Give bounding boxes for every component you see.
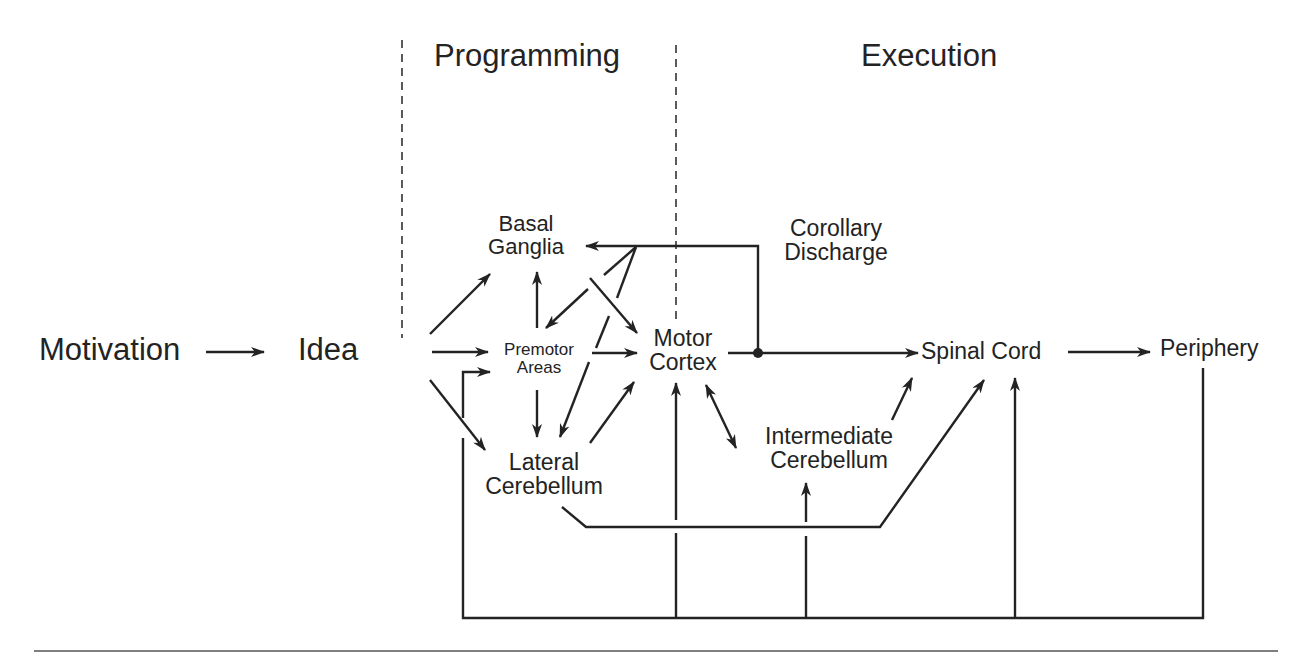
node-premotor-areas: Premotor Areas: [504, 341, 574, 377]
intermediate-cerebellum-line1: Intermediate: [765, 424, 893, 448]
node-lateral-cerebellum: Lateral Cerebellum: [485, 450, 603, 498]
node-corollary-discharge: Corollary Discharge: [784, 216, 888, 264]
node-intermediate-cerebellum: Intermediate Cerebellum: [765, 424, 893, 472]
edge-corollary-premotor-b: [546, 289, 588, 328]
basal-ganglia-line2: Ganglia: [488, 235, 564, 258]
node-motivation: Motivation: [39, 334, 180, 367]
edge-basal-ganglia-motor-cortex: [590, 278, 637, 333]
corollary-line2: Discharge: [784, 240, 888, 264]
lateral-cerebellum-line2: Cerebellum: [485, 474, 603, 498]
motor-cortex-line1: Motor: [649, 326, 717, 350]
phase-programming-title: Programming: [434, 40, 620, 73]
intermediate-cerebellum-line2: Cerebellum: [765, 448, 893, 472]
edge-lateral-cerebellum-motor-cortex: [590, 382, 634, 443]
edge-corollary-lateral-b: [596, 316, 609, 348]
phase-execution-title: Execution: [861, 40, 997, 73]
motor-cortex-line2: Cortex: [649, 350, 717, 374]
node-motor-cortex: Motor Cortex: [649, 326, 717, 374]
premotor-line1: Premotor: [504, 341, 574, 359]
lateral-cerebellum-line1: Lateral: [485, 450, 603, 474]
basal-ganglia-line1: Basal: [488, 212, 564, 235]
junction-dot: [753, 348, 763, 358]
node-periphery: Periphery: [1160, 336, 1258, 360]
node-basal-ganglia: Basal Ganglia: [488, 212, 564, 258]
edge-intermediate-spinal-cord: [892, 378, 912, 420]
edge-motor-cortex-intermediate-cerebellum: [706, 385, 736, 448]
edge-idea-lateral-cerebellum: [430, 380, 485, 450]
node-spinal-cord: Spinal Cord: [921, 339, 1041, 363]
premotor-line2: Areas: [504, 359, 574, 377]
node-idea: Idea: [298, 334, 358, 367]
corollary-line1: Corollary: [784, 216, 888, 240]
edge-idea-basal-ganglia: [430, 274, 490, 334]
feedback-to-premotor: [463, 372, 490, 418]
